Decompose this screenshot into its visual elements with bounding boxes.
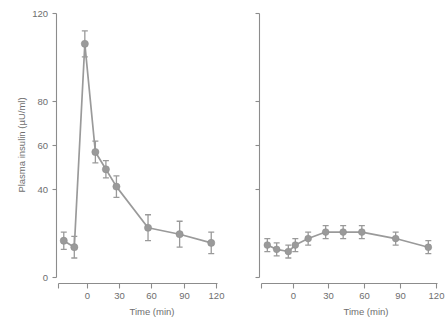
page-edge-artifact (0, 322, 447, 331)
series-line (267, 232, 428, 251)
data-point-marker (285, 248, 292, 255)
right-x-tick-label-120: 120 (429, 290, 445, 301)
data-point-marker (392, 235, 399, 242)
left-y-tick-label-60: 60 (37, 140, 48, 151)
right-x-ticks (262, 284, 437, 289)
left-x-tick-label-90: 90 (179, 290, 190, 301)
data-point-marker (208, 239, 215, 246)
left-x-tick-label-30: 30 (114, 290, 125, 301)
left-x-tick-label-120: 120 (209, 290, 225, 301)
left-series-group (60, 31, 215, 258)
data-point-marker (176, 231, 183, 238)
data-point-marker (264, 242, 271, 249)
right-panel: 0 30 60 90 120 Time (min) (256, 14, 445, 318)
left-y-tick-label-0: 0 (43, 272, 48, 283)
data-point-marker (358, 229, 365, 236)
right-x-axis-title: Time (min) (343, 306, 388, 317)
data-point-marker (60, 237, 67, 244)
left-y-tick-label-120: 120 (32, 8, 48, 19)
left-y-tick-label-80: 80 (37, 96, 48, 107)
dual-panel-insulin-chart: 120 80 60 40 0 0 30 60 90 120 Time (min) (0, 0, 447, 331)
right-x-tick-label-60: 60 (359, 290, 370, 301)
data-point-marker (425, 244, 432, 251)
data-point-marker (305, 235, 312, 242)
left-panel: 120 80 60 40 0 0 30 60 90 120 Time (min) (16, 8, 224, 317)
figure-container: 120 80 60 40 0 0 30 60 90 120 Time (min) (0, 0, 447, 331)
left-x-ticks (59, 284, 217, 289)
data-point-marker (102, 166, 109, 173)
left-y-ticks (53, 14, 57, 278)
left-x-tick-label-60: 60 (146, 290, 157, 301)
right-x-tick-label-90: 90 (395, 290, 406, 301)
data-point-marker (113, 183, 120, 190)
right-x-tick-label-0: 0 (291, 290, 296, 301)
left-x-axis-title: Time (min) (129, 306, 174, 317)
left-x-tick-label-0: 0 (85, 290, 90, 301)
right-series-group (264, 226, 432, 258)
data-point-marker (273, 246, 280, 253)
data-point-marker (340, 229, 347, 236)
data-point-marker (144, 224, 151, 231)
data-point-marker (71, 244, 78, 251)
series-line (64, 44, 211, 247)
data-point-marker (92, 148, 99, 155)
data-point-marker (81, 40, 88, 47)
left-y-tick-label-40: 40 (37, 184, 48, 195)
right-x-tick-label-30: 30 (323, 290, 334, 301)
right-y-ticks (256, 14, 260, 278)
data-point-marker (322, 229, 329, 236)
data-point-marker (292, 242, 299, 249)
left-y-axis-title: Plasma insulin (µU/ml) (16, 97, 27, 192)
